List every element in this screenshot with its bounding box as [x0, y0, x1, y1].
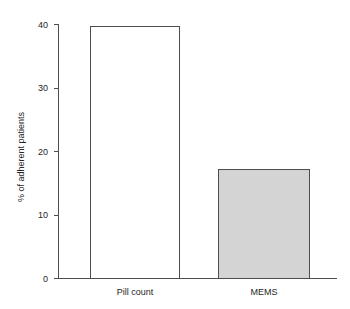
y-tick-label-40: 40 [38, 20, 48, 30]
x-label-pill-count: Pill count [117, 287, 154, 297]
y-tick-label-0: 0 [43, 274, 48, 284]
x-label-mems: MEMS [251, 287, 278, 297]
y-tick-label-10: 10 [38, 210, 48, 220]
y-axis-title: % of adherent patients [16, 111, 26, 202]
bar-pill-count [91, 26, 180, 278]
bar-chart: 0 10 20 30 40 % of adherent patients Pil… [0, 0, 350, 309]
y-tick-label-30: 30 [38, 83, 48, 93]
chart-canvas: 0 10 20 30 40 % of adherent patients Pil… [0, 0, 350, 309]
bar-mems [219, 169, 310, 278]
y-tick-label-20: 20 [38, 147, 48, 157]
